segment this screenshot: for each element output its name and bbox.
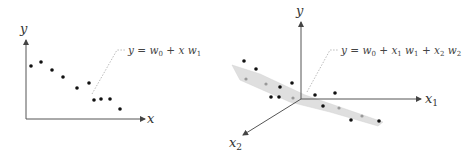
data-point xyxy=(99,97,103,101)
data-point xyxy=(377,119,381,123)
right-equation: y = w0 + x1 w1 + x2 w2 xyxy=(340,44,461,58)
data-point xyxy=(87,81,91,85)
data-point xyxy=(349,118,353,122)
right-y-label: y xyxy=(295,3,304,18)
right-x2-label: x2 xyxy=(229,135,242,152)
data-point xyxy=(108,97,112,101)
left-leader-line xyxy=(92,50,125,94)
data-point xyxy=(244,77,247,80)
data-point xyxy=(278,85,282,89)
data-point xyxy=(333,91,337,95)
data-point xyxy=(290,81,294,85)
data-point xyxy=(291,96,294,99)
left-plot: y x y = w0 + x w1 xyxy=(19,21,201,126)
data-point xyxy=(242,59,246,63)
right-x2-axis xyxy=(243,99,301,135)
right-x1-label: x1 xyxy=(425,91,438,108)
diagram-canvas: y x y = w0 + x w1 y x1 x2 y = w0 + x1 w1… xyxy=(0,0,469,158)
right-plot: y x1 x2 y = w0 + x1 w1 + x2 w2 xyxy=(229,3,461,152)
data-point xyxy=(321,104,325,108)
left-equation: y = w0 + x w1 xyxy=(127,44,201,58)
data-point xyxy=(264,82,267,85)
data-point xyxy=(313,93,317,97)
regression-plane xyxy=(232,65,383,126)
data-point xyxy=(118,107,122,111)
right-leader-line xyxy=(307,50,338,92)
regression-diagram: y x y = w0 + x w1 y x1 x2 y = w0 + x1 w1… xyxy=(0,0,469,158)
data-point xyxy=(29,64,33,68)
data-point xyxy=(269,95,273,99)
left-y-label: y xyxy=(19,21,28,36)
left-data-points xyxy=(29,60,122,111)
left-x-label: x xyxy=(147,111,155,126)
data-point xyxy=(75,86,79,90)
data-point xyxy=(50,68,54,72)
data-point xyxy=(277,95,281,99)
data-point xyxy=(92,98,96,102)
right-data-points xyxy=(242,59,381,123)
data-point xyxy=(360,114,363,117)
data-point xyxy=(254,67,258,71)
data-point xyxy=(61,75,65,79)
data-point xyxy=(337,106,340,109)
data-point xyxy=(39,60,43,64)
